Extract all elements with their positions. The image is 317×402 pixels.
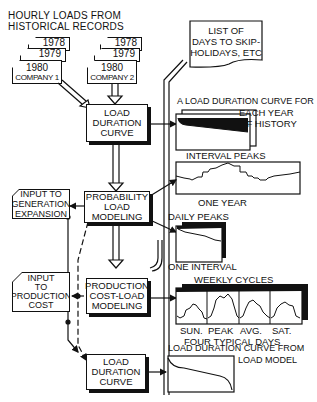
daily-peaks-chart (176, 222, 226, 262)
weekly-day-sat: SAT. (272, 325, 291, 336)
weekly-cycles-title: WEEKLY CYCLES (194, 274, 273, 285)
interval-peaks-chart (176, 162, 300, 194)
input-to-generation-expansion[interactable]: INPUT TO GENERATION EXPANSION (13, 190, 69, 218)
production-cost-load-modeling-box[interactable]: PRODUCTION COST-LOAD MODELING (86, 278, 148, 314)
load-duration-curve-box-2[interactable]: LOAD DURATION CURVE (86, 354, 146, 390)
weekly-day-avg: AVG. (240, 325, 262, 336)
skip-days-document: LIST OF DAYS TO SKIP- HOLIDAYS, ETC (189, 20, 263, 68)
ldc-history-caption-1: A LOAD DURATION CURVE FOR (177, 96, 314, 107)
gen-expansion-line-1: INPUT TO (20, 189, 62, 199)
ldc-history-caption-2: EACH YEAR (239, 107, 294, 118)
gen-expansion-line-3: EXPANSION (15, 209, 67, 219)
prod-cost-line-4: COST (28, 301, 53, 310)
daily-peaks-title: DAILY PEAKS (168, 211, 229, 222)
production-box-line-3: MODELING (92, 301, 143, 311)
daily-peaks-xlabel: ONE INTERVAL (168, 261, 237, 272)
probability-box-line-3: MODELING (92, 212, 143, 222)
interval-peaks-xlabel: ONE YEAR (198, 197, 247, 208)
skip-list-line-3: HOLIDAYS, ETC (189, 47, 263, 58)
weekly-day-peak: PEAK (208, 325, 233, 336)
gen-expansion-output-shape: INPUT TO GENERATION EXPANSION (12, 189, 70, 219)
ldc-model-caption-2: LOAD MODEL (238, 355, 297, 366)
probability-load-modeling-box[interactable]: PROBABILITY LOAD MODELING (84, 191, 150, 223)
prod-cost-output-shape: INPUT TO PRODUCTION COST (12, 272, 70, 312)
weekly-cycles-chart (176, 284, 308, 324)
load-duration-curve-box[interactable]: LOAD DURATION CURVE (86, 104, 148, 142)
gen-expansion-line-2: GENERATION (12, 199, 71, 209)
ldc-history-caption-3: OF HISTORY (239, 118, 297, 129)
weekly-day-sun: SUN. (180, 325, 203, 336)
interval-peaks-title: INTERVAL PEAKS (186, 150, 266, 161)
ldc-model-caption-1: LOAD DURATION CURVE FROM (168, 343, 304, 354)
input-to-production-cost[interactable]: INPUT TO PRODUCTION COST (13, 273, 69, 311)
skip-list-line-1: LIST OF (189, 25, 263, 36)
ldc-model-chart (168, 356, 234, 392)
ldc-box-line-3: CURVE (100, 128, 133, 138)
ldc2-box-line-3: CURVE (99, 377, 132, 387)
skip-list-line-2: DAYS TO SKIP- (189, 36, 263, 47)
